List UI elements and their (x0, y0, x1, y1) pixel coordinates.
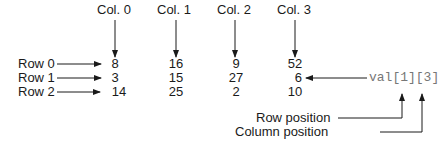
cell-1-2: 27 (221, 71, 251, 85)
column-header-0: Col. 0 (97, 3, 131, 17)
cell-2-1: 25 (161, 85, 191, 99)
cell-1-0: 3 (100, 71, 130, 85)
column-position-pointer (380, 94, 422, 132)
row-position-label: Row position (256, 111, 330, 125)
array-access-expression: val[1][3] (369, 71, 439, 85)
cell-2-0: 14 (104, 85, 134, 99)
cell-1-1: 15 (161, 71, 191, 85)
row-label-0: Row 0 (18, 57, 55, 71)
cell-2-2: 2 (221, 85, 251, 99)
column-position-label: Column position (235, 125, 328, 139)
column-header-2: Col. 2 (217, 3, 251, 17)
cell-0-0: 8 (100, 57, 130, 71)
cell-1-3: 6 (272, 71, 302, 85)
cell-0-3: 52 (280, 57, 310, 71)
row-label-1: Row 1 (18, 71, 55, 85)
column-header-3: Col. 3 (277, 3, 311, 17)
cell-0-2: 9 (221, 57, 251, 71)
column-header-1: Col. 1 (157, 3, 191, 17)
row-label-2: Row 2 (18, 85, 55, 99)
cell-2-3: 10 (280, 85, 310, 99)
cell-0-1: 16 (161, 57, 191, 71)
row-position-pointer (338, 94, 402, 118)
